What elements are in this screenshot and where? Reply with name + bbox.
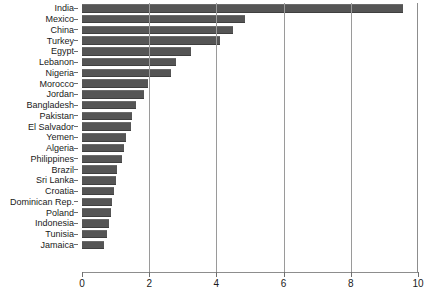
x-axis-tick-label: 10 xyxy=(412,278,423,289)
x-axis-tick-label: 2 xyxy=(146,278,152,289)
category-label-row: Bangladesh xyxy=(0,100,78,111)
category-tick xyxy=(74,137,78,138)
category-tick xyxy=(74,51,78,52)
category-label-row: Philippines xyxy=(0,154,78,165)
bar-row xyxy=(82,3,418,14)
bar xyxy=(82,241,104,249)
bar-row xyxy=(82,78,418,89)
bar xyxy=(82,101,136,109)
category-tick xyxy=(74,158,78,159)
category-label: Indonesia xyxy=(35,218,74,228)
category-axis: IndiaMexicoChinaTurkeyEgyptLebanonNigeri… xyxy=(0,3,78,272)
category-label: Dominican Rep. xyxy=(10,197,74,207)
category-label-row: Morocco xyxy=(0,78,78,89)
bar-row xyxy=(82,89,418,100)
x-axis-line xyxy=(82,272,418,273)
category-tick xyxy=(74,234,78,235)
category-label: Egypt xyxy=(51,46,74,56)
category-label-row: Jordan xyxy=(0,89,78,100)
bar-row xyxy=(82,186,418,197)
bar xyxy=(82,4,403,12)
bar xyxy=(82,15,245,23)
bar xyxy=(82,112,132,120)
category-tick xyxy=(74,212,78,213)
category-tick xyxy=(74,115,78,116)
bar xyxy=(82,165,117,173)
bar xyxy=(82,187,114,195)
category-label: Jamaica xyxy=(40,240,74,250)
x-axis-tick xyxy=(418,272,419,277)
bar-row xyxy=(82,111,418,122)
bar-row xyxy=(82,207,418,218)
bar xyxy=(82,208,111,216)
category-tick xyxy=(74,148,78,149)
bar xyxy=(82,58,176,66)
category-label: Lebanon xyxy=(39,57,74,67)
category-label-row: Poland xyxy=(0,207,78,218)
category-label-row: Algeria xyxy=(0,143,78,154)
category-label-row: Turkey xyxy=(0,35,78,46)
category-label-row: Lebanon xyxy=(0,57,78,68)
category-label-row: Yemen xyxy=(0,132,78,143)
category-label-row: Nigeria xyxy=(0,68,78,79)
bar-chart: IndiaMexicoChinaTurkeyEgyptLebanonNigeri… xyxy=(0,0,425,294)
category-tick xyxy=(74,62,78,63)
x-axis-tick xyxy=(351,272,352,277)
x-axis-tick xyxy=(216,272,217,277)
bar-row xyxy=(82,46,418,57)
category-tick xyxy=(74,83,78,84)
gridline xyxy=(351,3,352,272)
plot-area xyxy=(82,3,418,272)
x-axis-tick xyxy=(284,272,285,277)
bar xyxy=(82,69,171,77)
category-label-row: Mexico xyxy=(0,14,78,25)
x-axis-tick xyxy=(149,272,150,277)
category-label: Turkey xyxy=(47,36,74,46)
category-label: Mexico xyxy=(45,14,74,24)
bar xyxy=(82,90,144,98)
category-label: Bangladesh xyxy=(26,100,74,110)
x-axis-tick xyxy=(82,272,83,277)
category-tick xyxy=(74,223,78,224)
bar xyxy=(82,133,126,141)
gridline xyxy=(149,3,150,272)
category-label-row: Tunisia xyxy=(0,229,78,240)
category-label: Poland xyxy=(46,208,74,218)
category-label-row: El Salvador xyxy=(0,121,78,132)
category-tick xyxy=(74,40,78,41)
category-tick xyxy=(74,191,78,192)
category-label: El Salvador xyxy=(28,122,74,132)
bar xyxy=(82,36,220,44)
gridline xyxy=(284,3,285,272)
bar-row xyxy=(82,143,418,154)
bar xyxy=(82,26,233,34)
category-label: Algeria xyxy=(46,143,74,153)
category-label-row: Jamaica xyxy=(0,240,78,251)
category-tick xyxy=(74,8,78,9)
bar-row xyxy=(82,100,418,111)
category-label: Pakistan xyxy=(39,111,74,121)
category-label-row: Pakistan xyxy=(0,111,78,122)
category-tick xyxy=(74,244,78,245)
category-tick xyxy=(74,19,78,20)
category-tick xyxy=(74,126,78,127)
bar-row xyxy=(82,57,418,68)
bar-rows xyxy=(82,3,418,272)
category-label-row: India xyxy=(0,3,78,14)
category-label: Tunisia xyxy=(45,229,74,239)
bar-row xyxy=(82,197,418,208)
bar-row xyxy=(82,14,418,25)
category-label: Nigeria xyxy=(45,68,74,78)
category-label: Yemen xyxy=(46,132,74,142)
bar xyxy=(82,176,116,184)
category-label: Morocco xyxy=(39,79,74,89)
bar xyxy=(82,79,148,87)
category-tick xyxy=(74,72,78,73)
x-axis-tick-label: 8 xyxy=(348,278,354,289)
bar-row xyxy=(82,175,418,186)
category-tick xyxy=(74,105,78,106)
category-label: India xyxy=(54,3,74,13)
category-tick xyxy=(74,169,78,170)
category-label-row: Egypt xyxy=(0,46,78,57)
bar-row xyxy=(82,35,418,46)
